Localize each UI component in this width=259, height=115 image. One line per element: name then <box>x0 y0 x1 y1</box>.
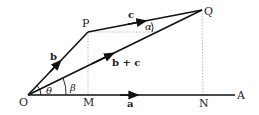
point-label-n: N <box>199 97 209 110</box>
point-label-o: O <box>19 96 28 109</box>
angle-arc-beta <box>63 78 66 95</box>
angle-label-beta: β <box>69 82 76 93</box>
point-label-p: P <box>82 17 90 30</box>
point-label-a: A <box>236 89 246 102</box>
vector-c-arrow <box>128 22 142 25</box>
angle-label-alpha: α <box>145 21 152 32</box>
vector-label-sum: b + c <box>112 57 140 68</box>
point-label-q: Q <box>204 5 213 18</box>
vector-diagram: O P Q M N A a b c b + c θ β α <box>0 0 259 115</box>
angle-label-theta: θ <box>46 85 52 96</box>
vector-label-a: a <box>127 98 134 109</box>
vector-label-b: b <box>50 51 57 62</box>
vector-b-arrow <box>50 64 58 73</box>
vector-label-c: c <box>128 9 134 20</box>
dotted-line-qn <box>202 10 203 95</box>
vector-sum-arrow <box>92 55 110 64</box>
point-label-m: M <box>83 96 94 109</box>
